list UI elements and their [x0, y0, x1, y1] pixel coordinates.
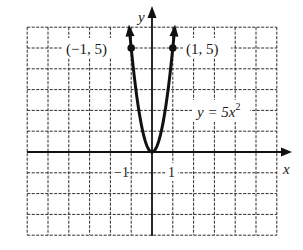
- point-marker: [127, 44, 135, 52]
- equation-label: y = 5x2: [195, 101, 240, 120]
- x-tick-label-pos1: 1: [168, 165, 175, 180]
- y-axis-arrow-icon: [148, 6, 157, 18]
- equation-main: y = 5x: [195, 104, 236, 120]
- curve-arrow-icon: [169, 24, 178, 36]
- equation-exponent: 2: [235, 101, 240, 112]
- x-axis-arrow-icon: [281, 148, 292, 157]
- parabola-graph: y x −1 1 (−1, 5) (1, 5) y = 5x2: [0, 0, 303, 250]
- x-axis-label: x: [282, 161, 290, 177]
- y-axis-label: y: [136, 9, 145, 25]
- point-marker: [169, 44, 177, 52]
- x-tick-label-neg1: −1: [114, 165, 129, 180]
- curve-arrow-icon: [126, 24, 135, 36]
- point-label-left: (−1, 5): [66, 41, 107, 58]
- point-label-right: (1, 5): [186, 41, 219, 58]
